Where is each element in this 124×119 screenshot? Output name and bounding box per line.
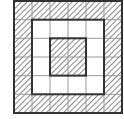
hatched-cell [86,94,104,113]
white-cell [68,76,86,95]
hatched-cell [104,94,122,113]
hatched-cell [68,38,86,57]
hatched-cell [104,38,122,57]
hatched-cell [86,1,104,20]
white-cell [32,57,50,76]
hatched-cell [50,1,68,20]
hatched-cell [32,94,50,113]
hatched-cell [14,76,32,95]
hatched-cell [14,1,32,20]
hatched-cell [104,1,122,20]
nested-squares-diagram [0,0,124,119]
hatched-cell [104,57,122,76]
white-cell [86,20,104,39]
hatched-cell [68,57,86,76]
white-cell [32,76,50,95]
white-cell [50,76,68,95]
white-cell [32,38,50,57]
white-cell [68,20,86,39]
hatched-cell [68,1,86,20]
hatched-cell [104,20,122,39]
hatched-cell [50,57,68,76]
hatched-cell [50,38,68,57]
hatched-cell [32,1,50,20]
white-cell [86,57,104,76]
white-cell [86,38,104,57]
white-cell [50,20,68,39]
white-cell [32,20,50,39]
hatched-cell [14,38,32,57]
white-cell [86,76,104,95]
hatched-cell [14,20,32,39]
hatched-cell [50,94,68,113]
hatched-cell [68,94,86,113]
hatched-cell [14,57,32,76]
hatched-cell [14,94,32,113]
hatched-cell [104,76,122,95]
